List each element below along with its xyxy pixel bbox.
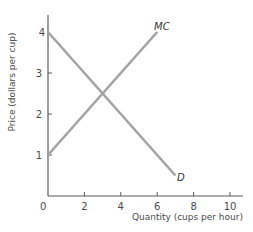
x-axis-title: Quantity (cups per hour) [132,212,243,222]
y-tick-label-2: 2 [36,109,42,120]
origin-label: 0 [40,201,46,212]
y-tick-labels: 1 2 3 4 [36,27,45,161]
y-tick-label-4: 4 [39,27,45,38]
x-tick-label-10: 10 [224,201,237,212]
x-tick-label-2: 2 [81,201,87,212]
x-tick-labels: 0 2 4 6 8 10 [40,201,236,212]
x-tick-label-6: 6 [154,201,160,212]
mc-label: MC [154,21,170,32]
demand-label: D [177,172,185,183]
demand-curve [48,32,175,176]
axes [48,15,243,196]
x-tick-label-8: 8 [190,201,196,212]
y-tick-label-3: 3 [36,68,42,79]
y-axis-title: Price (dollars per cup) [7,33,17,132]
x-tick-label-4: 4 [118,201,124,212]
y-tick-label-1: 1 [36,150,42,161]
supply-demand-chart: 0 2 4 6 8 10 1 2 3 4 Price (dollars per … [0,0,253,232]
